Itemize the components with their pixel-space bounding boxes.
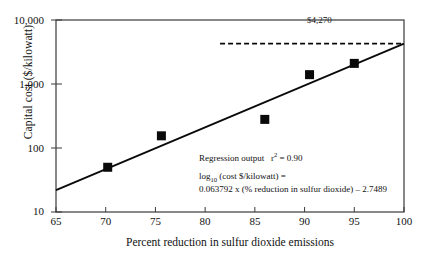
chart-figure: Capital cost ($/kilowatt) 10,000 1,000 1… <box>0 0 434 258</box>
data-point <box>103 163 112 172</box>
axis-ticks <box>51 20 404 212</box>
data-point <box>157 131 166 140</box>
plot-area <box>0 0 434 258</box>
data-point <box>260 115 269 124</box>
data-point <box>350 59 359 68</box>
data-point <box>305 70 314 79</box>
